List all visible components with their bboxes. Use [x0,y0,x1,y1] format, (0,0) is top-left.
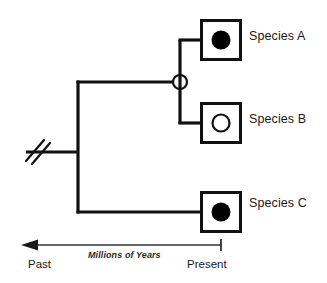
axis-title-label: Millions of Years [88,250,161,260]
species-b-trait-box [202,104,241,143]
species-a-label: Species A [249,29,306,43]
species-a-trait-box [202,21,241,60]
species-b-label: Species B [249,112,306,126]
axis-past-label: Past [28,258,51,270]
species-c-label: Species C [249,196,307,210]
species-c-trait-box [202,193,241,232]
phylogenetic-tree-diagram: Species A Species B Species C Past Milli… [0,0,327,283]
filled-circle-icon [212,31,231,50]
axis-present-label: Present [187,258,227,270]
open-circle-icon [213,115,230,132]
filled-circle-icon [212,203,231,222]
arrowhead-left-icon [21,240,38,251]
